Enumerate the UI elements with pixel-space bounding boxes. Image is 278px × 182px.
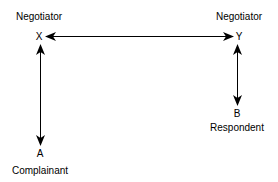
edge-x-a-arrow	[36, 44, 45, 146]
edges	[0, 0, 278, 182]
edge-x-y-arrow	[45, 32, 234, 41]
edge-y-b-arrow	[233, 44, 242, 106]
